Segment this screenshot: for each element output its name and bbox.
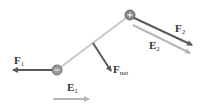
f2-label: F2: [175, 22, 186, 36]
positive-charge: [125, 10, 135, 20]
f1-label: F1: [14, 54, 25, 68]
e1-label: E1: [67, 81, 78, 95]
fnet-arrow: [93, 43, 111, 71]
fnet-label: Fnet: [113, 63, 128, 77]
dipole-rod: [57, 15, 130, 70]
e2-label: E2: [149, 39, 160, 53]
negative-charge: [52, 65, 62, 75]
dipole-diagram: F1 F2 E2 Fnet E1: [0, 0, 205, 108]
